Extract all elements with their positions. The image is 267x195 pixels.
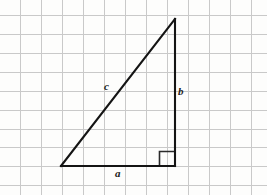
label-horizontal-leg-a: a — [115, 168, 121, 179]
triangle-side-c-hypotenuse — [61, 19, 175, 166]
label-hypotenuse-c: c — [104, 81, 109, 92]
figure-canvas — [0, 0, 267, 195]
label-vertical-leg-b: b — [178, 86, 184, 97]
right-triangle-figure: c b a — [0, 0, 267, 195]
triangle-outline — [61, 19, 175, 166]
